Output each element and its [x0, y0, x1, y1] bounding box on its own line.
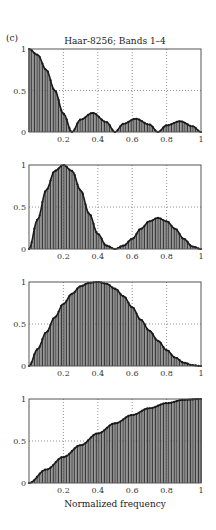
x-tick-label: 0.8 [160, 252, 173, 261]
plot-band-2: 00.510.20.40.60.81 [13, 161, 203, 261]
x-tick-label: 0.6 [126, 252, 139, 261]
y-tick-label: 0 [21, 128, 26, 137]
x-tick-label: 1 [198, 369, 203, 378]
y-tick-label: 0 [21, 362, 26, 371]
x-tick-label: 0.6 [126, 486, 139, 495]
x-tick-label: 0.4 [91, 252, 104, 261]
y-tick-label: 1 [21, 161, 26, 170]
x-tick-label: 0.2 [57, 252, 70, 261]
x-tick-label: 0.6 [126, 135, 139, 144]
y-tick-label: 0.5 [13, 203, 26, 212]
x-tick-label: 0.2 [57, 135, 70, 144]
y-tick-label: 1 [21, 278, 26, 287]
bar-series [30, 399, 202, 483]
x-tick-label: 0.8 [160, 135, 173, 144]
x-tick-label: 1 [198, 486, 203, 495]
y-tick-label: 0 [21, 479, 26, 488]
x-tick-label: 0.2 [57, 486, 70, 495]
x-tick-label: 0.6 [126, 369, 139, 378]
x-tick-label: 0.8 [160, 486, 173, 495]
x-tick-label: 0.4 [91, 486, 104, 495]
plot-band-4: 00.510.20.40.60.81 [13, 395, 203, 495]
y-tick-label: 0.5 [13, 320, 26, 329]
y-tick-label: 0 [21, 245, 26, 254]
y-tick-label: 1 [21, 395, 26, 404]
x-axis-label: Normalized frequency [29, 499, 201, 509]
figure-canvas: 00.510.20.40.60.81 00.510.20.40.60.81 00… [0, 0, 216, 530]
plot-band-1: 00.510.20.40.60.81 [13, 45, 203, 144]
y-tick-label: 0.5 [13, 87, 26, 96]
x-tick-label: 0.2 [57, 369, 70, 378]
x-tick-label: 1 [198, 135, 203, 144]
x-tick-label: 1 [198, 252, 203, 261]
y-tick-label: 1 [21, 45, 26, 54]
bar-series [30, 282, 201, 366]
plot-band-3: 00.510.20.40.60.81 [13, 278, 203, 378]
x-tick-label: 0.4 [91, 135, 104, 144]
x-tick-label: 0.4 [91, 369, 104, 378]
bar-series [30, 165, 201, 249]
y-tick-label: 0.5 [13, 437, 26, 446]
x-tick-label: 0.8 [160, 369, 173, 378]
